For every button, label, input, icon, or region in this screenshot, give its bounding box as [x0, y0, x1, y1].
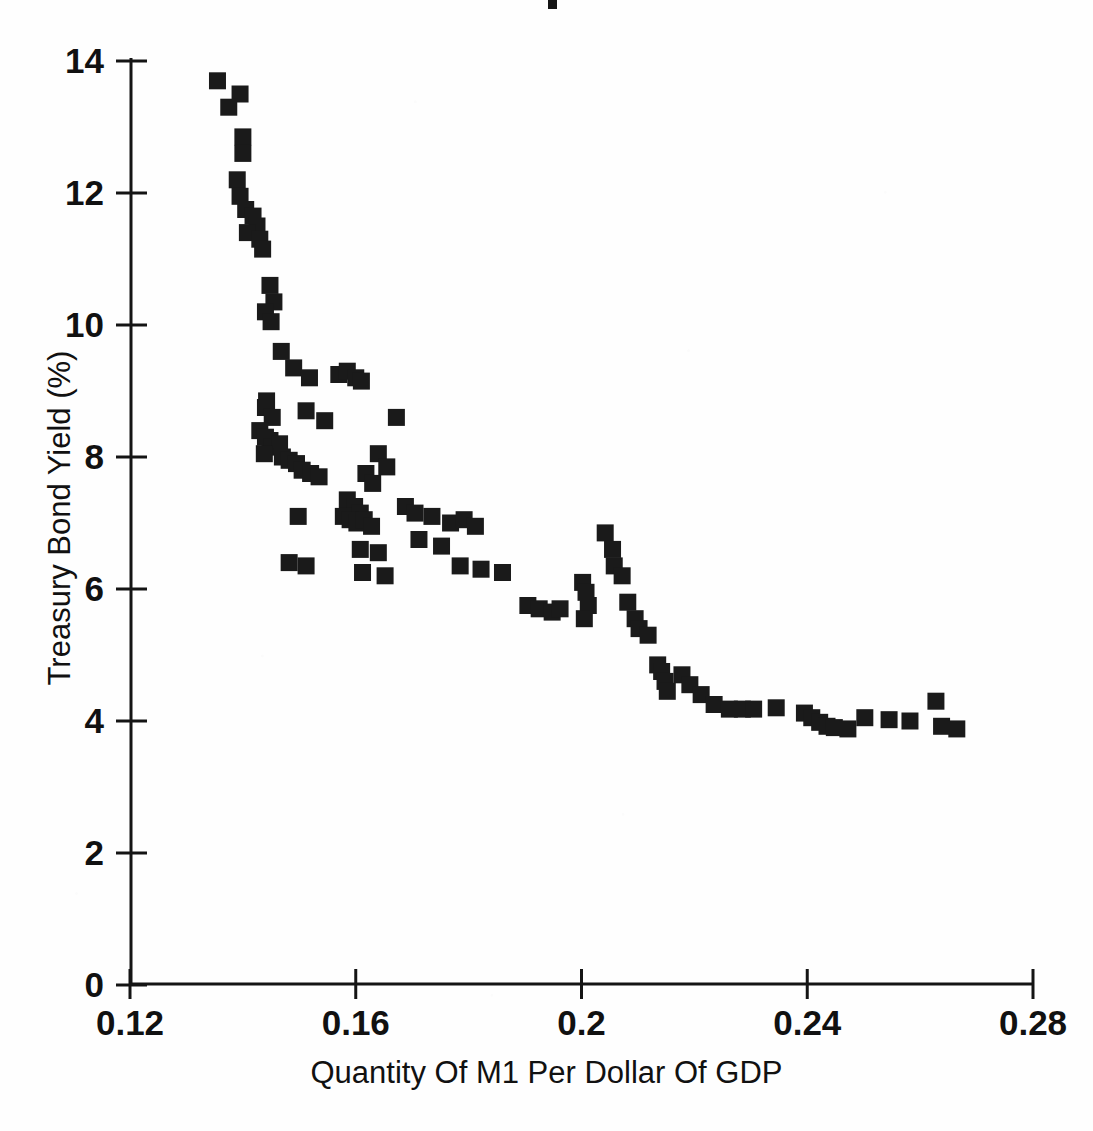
axis-lines	[130, 58, 1034, 985]
data-point-marker	[254, 241, 271, 258]
data-point-marker	[933, 718, 950, 735]
data-point-marker	[298, 557, 315, 574]
data-point-marker	[316, 412, 333, 429]
data-point-marker	[229, 171, 246, 188]
x-axis-title: Quantity Of M1 Per Dollar Of GDP	[0, 1055, 1093, 1091]
data-point-marker	[378, 458, 395, 475]
data-point-marker	[433, 538, 450, 555]
data-point-marker	[370, 544, 387, 561]
data-point-marker	[494, 564, 511, 581]
x-tick-label: 0.2	[557, 1003, 606, 1043]
data-point-marker	[901, 713, 918, 730]
data-point-marker	[856, 709, 873, 726]
data-point-marker	[839, 720, 856, 737]
x-tick-label: 0.12	[96, 1003, 164, 1043]
y-tick-label: 6	[85, 569, 104, 609]
data-point-marker	[301, 369, 318, 386]
y-tick-label: 12	[65, 173, 104, 213]
data-point-marker	[467, 518, 484, 535]
data-point-marker	[311, 468, 328, 485]
data-point-marker	[263, 313, 280, 330]
data-point-marker	[352, 541, 369, 558]
y-tick-label: 0	[85, 965, 104, 1005]
data-point-marker	[220, 99, 237, 116]
data-point-marker	[576, 610, 593, 627]
data-point-marker	[473, 561, 490, 578]
y-axis-title: Treasury Bond Yield (%)	[42, 238, 78, 798]
data-point-marker	[377, 567, 394, 584]
data-point-marker	[706, 696, 723, 713]
data-point-markers	[209, 72, 965, 737]
data-point-marker	[927, 693, 944, 710]
data-point-marker	[640, 627, 657, 644]
data-point-marker	[273, 343, 290, 360]
data-point-marker	[256, 445, 273, 462]
data-point-marker	[364, 475, 381, 492]
data-point-marker	[948, 720, 965, 737]
data-point-marker	[281, 554, 298, 571]
data-point-marker	[745, 701, 762, 718]
data-point-marker	[452, 557, 469, 574]
y-tick-label: 2	[85, 833, 104, 873]
y-tick-label: 8	[85, 437, 104, 477]
data-point-marker	[234, 145, 251, 162]
data-point-marker	[410, 531, 427, 548]
data-point-marker	[423, 508, 440, 525]
data-point-marker	[354, 564, 371, 581]
plot-area	[0, 0, 1093, 1131]
x-tick-label: 0.28	[999, 1003, 1067, 1043]
y-tick-label: 4	[85, 701, 104, 741]
data-point-marker	[209, 72, 226, 89]
data-point-marker	[614, 567, 631, 584]
data-point-marker	[604, 541, 621, 558]
data-point-marker	[234, 128, 251, 145]
data-point-marker	[768, 699, 785, 716]
data-point-marker	[290, 508, 307, 525]
data-point-marker	[881, 711, 898, 728]
data-point-marker	[619, 594, 636, 611]
data-point-marker	[298, 402, 315, 419]
data-point-marker	[552, 600, 569, 617]
data-point-marker	[285, 359, 302, 376]
data-point-marker	[597, 524, 614, 541]
y-tick-label: 14	[65, 41, 104, 81]
data-point-marker	[353, 373, 370, 390]
data-point-marker	[261, 277, 278, 294]
x-tick-label: 0.16	[322, 1003, 390, 1043]
x-tick-label: 0.24	[773, 1003, 841, 1043]
scatter-chart-figure: 02468101214 0.120.160.20.240.28 Quantity…	[0, 0, 1093, 1131]
data-point-marker	[659, 683, 676, 700]
data-point-marker	[388, 409, 405, 426]
data-point-marker	[407, 505, 424, 522]
data-point-marker	[363, 518, 380, 535]
